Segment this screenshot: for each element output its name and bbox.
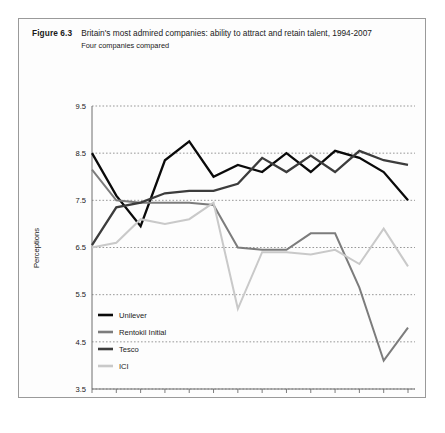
line-chart-svg: 3.54.55.56.57.58.59.5 199419951996199719… — [19, 63, 425, 397]
figure-container: Figure 6.3 Britain's most admired compan… — [18, 18, 426, 398]
y-axis-tick-label: 5.5 — [75, 290, 86, 299]
series-line-tesco — [92, 151, 408, 245]
x-axis-tick-label: 1995 — [101, 396, 118, 397]
x-axis-tick-label: 2002 — [271, 396, 288, 397]
x-axis-tick-label: 2005 — [344, 396, 361, 397]
x-axis-tick-label: 2007 — [392, 396, 409, 397]
y-axis-tick-label: 4.5 — [75, 338, 86, 347]
chart-legend: UnileverRentokil InitialTescoICI — [98, 311, 167, 371]
y-axis-ticks: 3.54.55.56.57.58.59.5 — [75, 102, 86, 394]
x-axis-tick-label: 1994 — [76, 396, 93, 397]
series-line-unilever — [92, 141, 408, 226]
x-axis-tick-label: 2003 — [295, 396, 312, 397]
x-axis-tick-label: 1998 — [174, 396, 191, 397]
grid-lines — [92, 106, 415, 389]
figure-title: Britain's most admired companies: abilit… — [81, 28, 372, 39]
legend-label-unilever: Unilever — [119, 311, 147, 320]
figure-subtitle: Four companies compared — [81, 41, 372, 50]
y-axis-tick-label: 7.5 — [75, 196, 86, 205]
y-axis-title: Perceptions — [32, 228, 41, 268]
legend-label-rentokil-initial: Rentokil Initial — [119, 328, 167, 337]
x-axis-ticks: 1994199519961997199819992000200120022003… — [76, 389, 409, 397]
y-axis-tick-label: 6.5 — [75, 243, 86, 252]
x-axis-tick-label: 2000 — [222, 396, 239, 397]
figure-caption: Figure 6.3 Britain's most admired compan… — [32, 28, 414, 50]
y-axis-tick-label: 8.5 — [75, 149, 86, 158]
chart-plot-area: 3.54.55.56.57.58.59.5 199419951996199719… — [19, 63, 425, 397]
legend-label-ici: ICI — [119, 362, 129, 371]
y-axis-tick-label: 3.5 — [75, 385, 86, 394]
legend-label-tesco: Tesco — [119, 345, 139, 354]
figure-number-label: Figure 6.3 — [32, 28, 81, 38]
x-axis-tick-label: 2006 — [368, 396, 385, 397]
x-axis-tick-label: 2001 — [247, 396, 264, 397]
x-axis-tick-label: 1996 — [125, 396, 142, 397]
x-axis-tick-label: 1997 — [149, 396, 166, 397]
y-axis-tick-label: 9.5 — [75, 102, 86, 111]
x-axis-tick-label: 2004 — [319, 396, 336, 397]
figure-caption-text: Britain's most admired companies: abilit… — [81, 28, 372, 50]
x-axis-tick-label: 1999 — [198, 396, 215, 397]
